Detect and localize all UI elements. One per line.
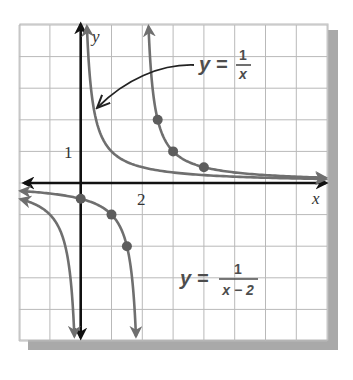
data-point (153, 115, 163, 125)
eq1-numerator: 1 (239, 47, 247, 63)
eq1-lhs: y = (198, 53, 228, 75)
paper-shadow-right (328, 30, 338, 350)
tick-label-y-1: 1 (64, 143, 73, 162)
eq2-denominator: x − 2 (221, 282, 254, 298)
data-point (168, 146, 178, 156)
eq1-denominator: x (238, 66, 248, 82)
graph: 1 2 x y y = 1 x y = 1 x − 2 (0, 0, 353, 380)
data-point (76, 194, 86, 204)
data-point (199, 162, 209, 172)
tick-label-x-2: 2 (137, 190, 146, 209)
x-axis-label: x (311, 189, 320, 208)
eq2-numerator: 1 (234, 261, 242, 277)
eq2-lhs: y = (179, 267, 209, 289)
data-point (122, 241, 132, 251)
data-point (107, 210, 117, 220)
y-axis-label: y (90, 27, 100, 46)
